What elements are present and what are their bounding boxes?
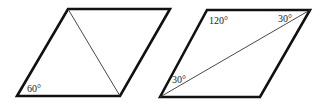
- right-rhombus: 120° 30° 30°: [160, 10, 310, 97]
- angle-label-30-bottom: 30°: [172, 74, 186, 85]
- angle-label-60: 60°: [27, 83, 41, 94]
- left-rhombus: 60°: [17, 9, 170, 96]
- angle-label-120: 120°: [209, 15, 228, 26]
- angle-label-30-top: 30°: [278, 13, 292, 24]
- rhombus-diagram: 60° 120° 30° 30°: [0, 0, 322, 106]
- left-rhombus-diagonal: [68, 9, 120, 96]
